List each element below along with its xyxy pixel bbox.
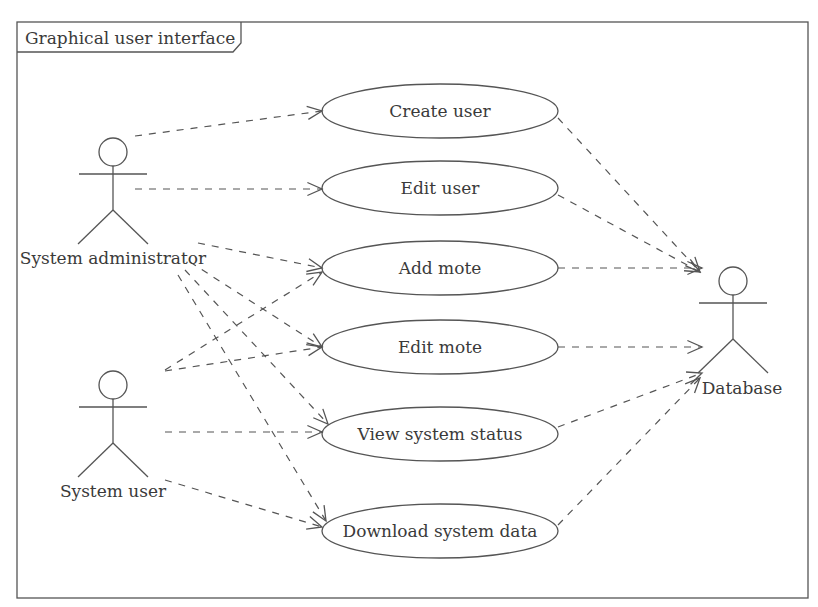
association-create_user-to-db — [558, 118, 700, 272]
actor-label: Database — [702, 378, 783, 398]
use-cases: Create userEdit userAdd moteEdit moteVie… — [322, 84, 558, 558]
association-admin-to-add_mote — [198, 243, 322, 272]
association-edit_user-to-db — [558, 195, 700, 272]
use-case-edit-mote[interactable]: Edit mote — [322, 320, 558, 374]
association-admin-to-edit_mote — [190, 262, 322, 347]
actor-label: System user — [60, 481, 167, 501]
frame-title: Graphical user interface — [25, 28, 235, 48]
use-case-label: Edit mote — [398, 337, 482, 357]
association-admin-to-create_user — [135, 106, 322, 136]
arrowhead-icon — [307, 106, 322, 119]
arrowhead-icon — [306, 517, 322, 530]
use-case-add-mote[interactable]: Add mote — [322, 241, 558, 295]
association-user-to-download_data — [165, 480, 322, 529]
use-case-label: View system status — [356, 424, 522, 444]
use-case-label: Create user — [389, 101, 491, 121]
use-case-diagram: Graphical user interface Create userEdit… — [0, 0, 818, 607]
association-add_mote-to-db — [558, 261, 702, 274]
association-view_status-to-db — [558, 372, 702, 427]
association-user-to-view_status — [165, 425, 322, 438]
use-case-label: Download system data — [343, 521, 538, 541]
association-edit_mote-to-db — [558, 340, 702, 353]
associations — [135, 106, 702, 529]
use-case-download-data[interactable]: Download system data — [322, 504, 558, 558]
association-user-to-edit_mote — [165, 343, 322, 371]
association-user-to-add_mote — [165, 272, 322, 370]
use-case-edit-user[interactable]: Edit user — [322, 161, 558, 215]
association-admin-to-edit_user — [135, 182, 322, 195]
actor-db[interactable]: Database — [698, 267, 782, 398]
stick-figure-icon — [78, 371, 148, 477]
stick-figure-icon — [698, 267, 768, 373]
use-case-view-status[interactable]: View system status — [322, 407, 558, 461]
use-case-label: Edit user — [401, 178, 481, 198]
actor-admin[interactable]: System administrator — [20, 138, 207, 268]
use-case-label: Add mote — [398, 258, 482, 278]
actor-user[interactable]: System user — [60, 371, 167, 501]
actor-label: System administrator — [20, 248, 207, 268]
stick-figure-icon — [78, 138, 148, 244]
association-admin-to-view_status — [185, 270, 328, 424]
use-case-create-user[interactable]: Create user — [322, 84, 558, 138]
